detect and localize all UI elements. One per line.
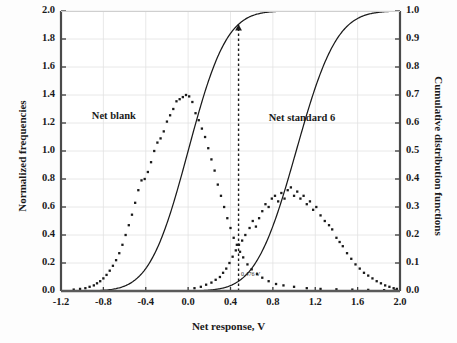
y-axis-right-tick: 0.1 [406, 256, 436, 267]
y-axis-right-tick: 1.0 [406, 4, 436, 15]
y-axis-right-tick: 0.6 [406, 116, 436, 127]
y-axis-right-tick: 0.7 [406, 88, 436, 99]
y-axis-left-tick: 0.4 [25, 228, 55, 239]
x-axis-tick: -1.2 [41, 296, 81, 307]
y-axis-right-tick: 0.2 [406, 228, 436, 239]
y-axis-left-title: Normalized frequencies [16, 56, 28, 256]
x-axis-tick: 2.0 [380, 296, 420, 307]
y-axis-left-tick: 1.6 [25, 60, 55, 71]
critical-value-label: 0.476 V [241, 271, 260, 277]
y-axis-right-title: Cumulative distribution functions [433, 56, 445, 256]
y-axis-left-tick: 0.0 [25, 284, 55, 295]
net-standard-6-label: Net standard 6 [269, 112, 336, 123]
x-axis-tick: 0.8 [253, 296, 293, 307]
x-axis-tick: 1.6 [338, 296, 378, 307]
x-axis-tick: 0.4 [211, 296, 251, 307]
y-axis-left-tick: 2.0 [25, 4, 55, 15]
y-axis-left-tick: 0.6 [25, 200, 55, 211]
y-axis-right-tick: 0.5 [406, 144, 436, 155]
chart-plot-area [0, 0, 457, 343]
x-axis-tick: -0.4 [126, 296, 166, 307]
chart-figure: Normalized frequencies Cumulative distri… [0, 0, 457, 343]
x-axis-tick: 1.2 [295, 296, 335, 307]
y-axis-right-tick: 0.3 [406, 200, 436, 211]
y-axis-left-tick: 0.8 [25, 172, 55, 183]
y-axis-right-tick: 0.8 [406, 60, 436, 71]
y-axis-right-tick: 0.4 [406, 172, 436, 183]
y-axis-right-tick: 0.0 [406, 284, 436, 295]
y-axis-left-tick: 1.8 [25, 32, 55, 43]
y-axis-left-tick: 1.0 [25, 144, 55, 155]
y-axis-left-tick: 1.4 [25, 88, 55, 99]
y-axis-left-tick: 0.2 [25, 256, 55, 267]
net-blank-label: Net blank [92, 110, 136, 121]
x-axis-tick: 0.0 [168, 296, 208, 307]
x-axis-tick: -0.8 [83, 296, 123, 307]
y-axis-right-tick: 0.9 [406, 32, 436, 43]
y-axis-left-tick: 1.2 [25, 116, 55, 127]
x-axis-title: Net response, V [0, 320, 457, 332]
